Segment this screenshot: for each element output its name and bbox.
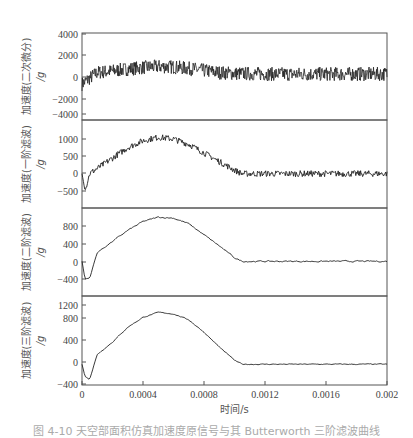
y-tick-label: 400 [63, 239, 78, 250]
x-tick-label: 0.0012 [251, 389, 279, 400]
signal-line [82, 217, 387, 279]
x-axis-title: 时间/s [220, 403, 249, 415]
y-tick-label: 800 [63, 221, 78, 232]
y-tick-label: −4000 [52, 109, 78, 120]
y-tick-label: −500 [57, 186, 78, 197]
y-tick-label: 2000 [58, 50, 78, 61]
x-tick-label: 0.0004 [129, 389, 157, 400]
x-tick-label: 0.002 [376, 389, 399, 400]
x-tick-label: 0 [80, 389, 85, 400]
figure-caption: 图 4-10 天空部面积仿真加速度原信号与其 Butterworth 三阶滤波曲… [0, 422, 413, 438]
y-tick-label: 400 [63, 335, 78, 346]
y-axis-unit: /g [35, 72, 46, 83]
y-tick-label: 800 [63, 313, 78, 324]
y-axis-title: 加速度(二阶滤波) [20, 213, 32, 291]
y-axis-unit: /g [35, 159, 46, 170]
y-tick-label: 1200 [58, 300, 78, 311]
y-tick-label: −2000 [52, 94, 78, 105]
panel-2: 10005000−500加速度(一阶滤波)/g [20, 120, 387, 208]
y-tick-label: 500 [63, 151, 78, 162]
y-tick-label: 0 [73, 72, 78, 83]
panel-frame [82, 208, 387, 296]
signal-line [82, 135, 387, 190]
y-axis-unit: /g [35, 247, 46, 258]
signal-line [82, 312, 387, 379]
y-tick-label: 0 [73, 168, 78, 179]
y-tick-label: −400 [57, 274, 78, 285]
panel-1: 400020000−2000−4000加速度(二次微分)/g [20, 29, 387, 121]
y-axis-title: 加速度(二次微分) [20, 38, 32, 116]
signal-line [82, 60, 387, 91]
y-tick-label: 1000 [58, 134, 78, 145]
y-axis-title: 加速度(一阶滤波) [20, 125, 32, 203]
panel-frame [82, 120, 387, 208]
x-tick-label: 0.0008 [190, 389, 218, 400]
panel-3: 8004000−400加速度(二阶滤波)/g [20, 208, 387, 296]
y-tick-label: 0 [73, 357, 78, 368]
y-tick-label: 0 [73, 257, 78, 268]
x-tick-label: 0.0016 [312, 389, 340, 400]
y-axis-title: 加速度(三阶滤波) [20, 302, 32, 380]
y-tick-label: −400 [57, 379, 78, 390]
y-tick-label: 4000 [58, 29, 78, 40]
panel-4: 12008004000−400加速度(三阶滤波)/g [20, 296, 387, 390]
x-axis: 00.00040.00080.00120.00160.002时间/s [80, 381, 399, 415]
y-axis-unit: /g [35, 336, 46, 347]
panel-frame [82, 296, 387, 385]
